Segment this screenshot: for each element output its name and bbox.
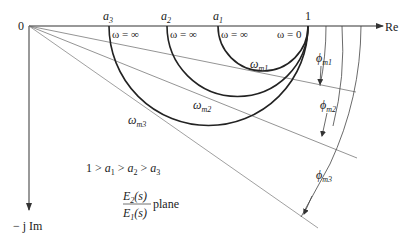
plane-numerator: E2(s) — [122, 189, 147, 205]
a1-label: a1 — [213, 9, 223, 25]
phi-m2-label: ϕm2 — [320, 98, 336, 114]
phi-arrow-2 — [322, 113, 327, 136]
omega-m3-label: ωm3 — [128, 113, 146, 129]
omega-m2-label: ωm2 — [193, 98, 211, 114]
phi-arc-3 — [301, 26, 361, 217]
omega-inf-label-a2: ω = ∞ — [170, 28, 197, 40]
phi-m1-label: ϕm1 — [316, 51, 332, 67]
tangent-line-2 — [29, 26, 357, 158]
plane-denominator: E1(s) — [122, 206, 147, 222]
unit-point-label: 1 — [305, 9, 311, 23]
inequality-label: 1 > a1 > a2 > a3 — [86, 161, 160, 177]
polar-plot-diagram: 0 Re − j Im 1 a3 a2 a1 ω = ∞ ω = ∞ ω = ∞… — [0, 0, 411, 238]
plane-label: E2(s) E1(s) plane — [122, 189, 179, 222]
plane-suffix: plane — [153, 197, 179, 211]
omega-inf-label-a3: ω = ∞ — [112, 28, 139, 40]
a3-label: a3 — [103, 9, 113, 25]
phi-m3-label: ϕm3 — [316, 168, 332, 184]
origin-label: 0 — [18, 19, 24, 33]
omega-m1-label: ωm1 — [250, 57, 268, 73]
imag-axis-label: − j Im — [13, 219, 43, 233]
omega-zero-label: ω = 0 — [277, 28, 302, 40]
omega-inf-label-a1: ω = ∞ — [221, 28, 248, 40]
phi-arrow-3 — [304, 196, 312, 214]
real-axis-label: Re — [385, 20, 398, 34]
a2-label: a2 — [161, 9, 171, 25]
